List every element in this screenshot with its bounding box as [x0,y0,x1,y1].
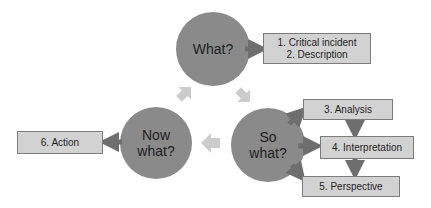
reflective-cycle-diagram: What? So what? Now what? 1. Critical inc… [0,0,431,208]
so-what-label: So what? [231,108,305,182]
box-interpretation-text: 4. Interpretation [332,142,402,154]
what-label: What? [176,12,250,86]
box-critical-incident-description: 1. Critical incident 2. Description [263,33,371,64]
box-action: 6. Action [17,131,103,154]
box-perspective: 5. Perspective [302,176,400,197]
box-interpretation: 4. Interpretation [320,136,414,159]
what-label-text: What? [193,42,233,57]
box-critical-incident-text: 1. Critical incident [278,37,357,49]
box-description-text: 2. Description [286,49,347,61]
box-analysis: 3. Analysis [303,99,393,120]
so-what-label-line1: So [259,129,276,145]
box-perspective-text: 5. Perspective [319,181,382,193]
now-what-label-line2: what? [137,143,174,159]
now-what-label-line1: Now [142,127,170,143]
cycle-arrow-so-to-now-icon [201,133,220,153]
now-what-label: Now what? [120,107,192,179]
box-analysis-text: 3. Analysis [324,104,372,116]
cycle-arrow-what-to-so-icon [232,84,257,109]
so-what-label-line2: what? [249,145,286,161]
cycle-arrow-now-to-what-icon [173,81,198,106]
box-action-text: 6. Action [41,137,79,149]
